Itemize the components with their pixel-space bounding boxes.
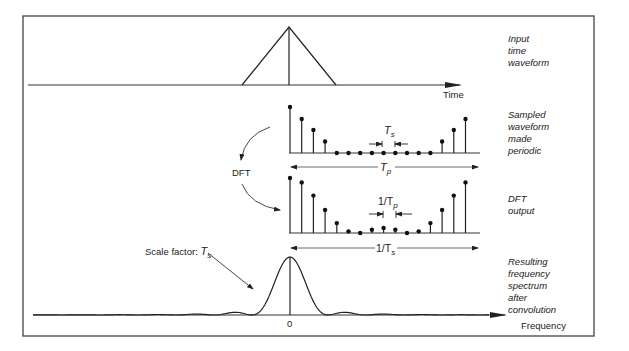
time-axis-label: Time — [443, 89, 464, 100]
spectrum-side-line-5: convolution — [508, 304, 556, 315]
sampled-side-line-2: waveform — [508, 121, 549, 132]
sampled-sample-dot — [381, 151, 385, 155]
dft-sample-dot — [417, 229, 421, 233]
dft-side-line-2: output — [508, 205, 535, 216]
dft-sample-dot — [288, 176, 292, 180]
input-panel: Time Input time waveform — [28, 27, 549, 100]
sampled-sample-dot — [311, 128, 315, 132]
spectrum-side-line-4: after — [508, 292, 528, 303]
dft-sample-dot — [370, 228, 374, 232]
dft-sample-dot — [346, 229, 350, 233]
dft-arrow-upper — [241, 127, 270, 160]
scale-factor-label: Scale factor: Ts — [145, 245, 211, 260]
dft-sample-dot — [311, 193, 315, 197]
time-axis-arrowhead — [445, 82, 462, 88]
dft-sample-dot — [300, 180, 304, 184]
spectrum-origin-label: 0 — [287, 318, 292, 329]
inv-tp-interval-label: 1/Tp — [378, 195, 398, 210]
sampled-panel: Ts Tp Sampled waveform made periodic — [288, 105, 552, 176]
frequency-axis-label: Frequency — [521, 320, 566, 331]
sampled-sample-dot — [417, 151, 421, 155]
sampled-side-line-4: periodic — [507, 145, 542, 156]
sampled-sample-dot — [370, 151, 374, 155]
sampled-sample-dot — [405, 151, 409, 155]
sampled-side-line-1: Sampled — [508, 109, 546, 120]
spectrum-side-label: Resulting frequency spectrum after convo… — [508, 256, 556, 315]
scale-factor-pointer — [208, 253, 253, 289]
sampled-sample-dot — [288, 105, 292, 109]
dft-transform-arrow: DFT — [232, 127, 280, 210]
tp-period-label: Tp — [380, 161, 392, 176]
input-side-line-2: time — [508, 45, 526, 56]
spectrum-side-line-1: Resulting — [508, 256, 548, 267]
input-side-line-1: Input — [508, 33, 529, 44]
sampled-sample-dot — [346, 151, 350, 155]
spectrum-side-line-3: spectrum — [508, 280, 547, 291]
dft-side-line-1: DFT — [508, 193, 528, 204]
sampled-sample-dot — [335, 151, 339, 155]
sampled-sample-dot — [452, 128, 456, 132]
sampled-sample-dot — [323, 139, 327, 143]
input-side-label: Input time waveform — [508, 33, 549, 68]
dft-sample-dot — [428, 221, 432, 225]
inv-ts-period-label: 1/Ts — [376, 242, 395, 257]
sampled-sample-dot — [393, 151, 397, 155]
dft-sample-dot — [393, 228, 397, 232]
sampled-sample-dot — [463, 117, 467, 121]
dft-transform-label: DFT — [232, 167, 251, 178]
spectrum-side-line-2: frequency — [508, 268, 551, 279]
sampled-sample-dot — [428, 151, 432, 155]
dft-sample-dot — [440, 208, 444, 212]
sampled-sample-dot — [440, 139, 444, 143]
dft-sample-dot — [463, 180, 467, 184]
dft-panel: 1/Tp 1/Ts DFT output — [288, 176, 535, 257]
sampled-side-line-3: made — [508, 133, 532, 144]
spectrum-curve — [33, 257, 489, 315]
spectrum-panel: 0 Frequency Scale factor: Ts Resulting f… — [33, 245, 566, 331]
ts-interval-label: Ts — [384, 124, 395, 139]
dft-sample-dot — [335, 221, 339, 225]
dft-diagram: Time Input time waveform Ts Tp Sampled w… — [0, 0, 629, 351]
dft-side-label: DFT output — [508, 193, 535, 216]
frequency-axis-arrowhead — [490, 312, 507, 318]
dft-sample-dot — [323, 208, 327, 212]
sampled-stems — [288, 105, 468, 155]
input-side-line-3: waveform — [508, 57, 549, 68]
dft-sample-dot — [381, 226, 385, 230]
sampled-sample-dot — [300, 117, 304, 121]
sampled-sample-dot — [358, 151, 362, 155]
sampled-side-label: Sampled waveform made periodic — [507, 109, 552, 156]
dft-sample-dot — [358, 231, 362, 235]
dft-arrow-lower — [242, 184, 280, 210]
dft-sample-dot — [452, 193, 456, 197]
dft-sample-dot — [405, 231, 409, 235]
